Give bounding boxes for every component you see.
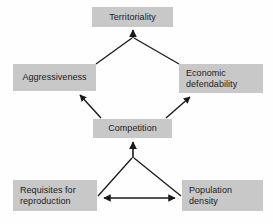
diagram-canvas: Territoriality Aggressiveness Economic d… xyxy=(0,0,273,224)
node-population-density[interactable]: Population density xyxy=(182,180,263,211)
edge-competition-to-aggressiveness xyxy=(80,95,101,118)
node-population-density-line-0: Population xyxy=(189,185,232,196)
node-economic-defendability-line-0: Economic xyxy=(186,68,226,79)
edge-aggressiveness-to-apex xyxy=(96,38,132,64)
node-requisites-for-reproduction-line-0: Requisites for xyxy=(20,185,76,196)
edge-economic-to-apex xyxy=(134,38,179,64)
edge-population-to-junction xyxy=(134,158,181,196)
node-population-density-line-1: density xyxy=(189,196,218,207)
node-economic-defendability-line-1: defendability xyxy=(186,79,237,90)
node-territoriality-line-0: Territoriality xyxy=(109,12,156,23)
node-aggressiveness-line-0: Aggressiveness xyxy=(22,72,86,83)
edge-competition-to-economic xyxy=(166,97,190,118)
node-competition[interactable]: Competition xyxy=(93,119,172,138)
node-requisites-for-reproduction[interactable]: Requisites for reproduction xyxy=(13,180,97,211)
edge-requisites-to-junction xyxy=(98,158,132,196)
node-aggressiveness[interactable]: Aggressiveness xyxy=(13,64,96,91)
node-competition-line-0: Competition xyxy=(108,123,157,134)
node-requisites-for-reproduction-line-1: reproduction xyxy=(20,196,71,207)
node-economic-defendability[interactable]: Economic defendability xyxy=(179,64,263,93)
node-territoriality[interactable]: Territoriality xyxy=(92,7,173,27)
